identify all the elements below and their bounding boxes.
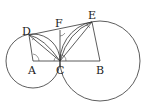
label-d: D xyxy=(22,25,31,38)
angle-marks xyxy=(32,25,90,61)
label-a: A xyxy=(27,64,37,77)
label-b: B xyxy=(96,64,104,77)
segment-eb xyxy=(92,22,100,61)
segment-ad xyxy=(29,35,33,61)
geometry-diagram: D F E A C B xyxy=(0,0,145,107)
label-c: C xyxy=(56,64,64,77)
label-f: F xyxy=(55,17,63,30)
label-e: E xyxy=(88,9,96,22)
